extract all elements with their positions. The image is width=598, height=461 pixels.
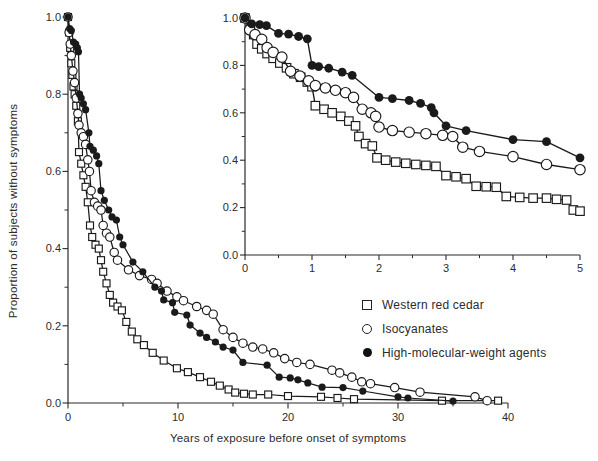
data-point-open-circle [404,127,414,137]
data-point-open-circle [458,142,468,152]
data-point-filled-circle [405,96,414,105]
x-tick-label: 20 [282,411,294,423]
data-point-open-circle [209,310,217,318]
y-tick-label: 0.4 [46,242,61,254]
data-point-open-circle [508,151,518,161]
data-point-open-circle [69,67,77,75]
x-axis-label: Years of exposure before onset of sympto… [68,432,508,444]
data-point-open-circle [448,131,458,141]
data-point-open-circle [270,349,278,357]
data-point-filled-circle [449,397,456,404]
data-point-open-circle [320,83,330,93]
data-point-filled-circle [247,20,256,29]
data-point-open-circle [541,159,551,169]
data-point-open-square [552,195,561,204]
data-point-open-circle [70,78,78,86]
data-point-open-square [462,174,471,183]
data-point-open-square [265,391,272,398]
data-point-open-circle [193,302,201,310]
data-point-filled-circle [294,376,301,383]
data-point-open-square [128,328,135,335]
data-point-open-circle [358,378,366,386]
y-tick-label: 0.2 [46,320,61,332]
data-point-open-circle [387,125,397,135]
data-point-filled-circle [64,13,71,20]
data-point-filled-circle [284,30,293,39]
data-point-filled-circle [85,129,92,136]
x-tick-label: 0 [65,411,71,423]
chart-canvas: 0102030400.00.20.40.60.81.00123450.00.20… [0,0,598,461]
data-point-filled-circle [388,94,397,103]
data-point-open-square [351,396,358,403]
y-tick-label: 0.0 [46,397,61,409]
filled-circle-icon [352,348,382,357]
main-chart: 0102030400.00.20.40.60.81.0 [46,11,514,423]
data-point-filled-circle [82,106,89,113]
data-point-open-square [337,112,346,121]
data-point-open-square [492,183,501,192]
y-axis-label: Proportion of subjects without symptoms [7,104,19,318]
data-point-filled-circle [151,284,158,291]
data-point-open-square [76,149,83,156]
data-point-filled-circle [241,14,250,23]
data-point-open-circle [336,369,344,377]
data-point-open-square [412,160,421,169]
data-point-open-square [422,161,431,170]
data-point-filled-circle [348,71,357,80]
data-point-open-circle [277,52,287,62]
data-point-open-square [432,162,441,171]
data-point-open-square [98,257,105,264]
data-point-open-circle [84,156,92,164]
data-point-filled-circle [129,259,136,266]
y-tick-label: 0.8 [223,59,238,71]
data-point-open-square [173,365,180,372]
data-point-open-square [106,291,113,298]
series-line [245,18,580,170]
data-point-filled-circle [68,27,75,34]
data-point-open-square [225,386,232,393]
data-point-filled-circle [220,343,227,350]
legend-item-western-red-cedar: Western red cedar [352,297,546,312]
data-point-filled-circle [430,108,439,117]
data-point-filled-circle [404,394,411,401]
data-point-open-square [472,182,481,191]
y-tick-label: 0.0 [223,249,238,261]
data-point-open-circle [483,396,491,404]
data-point-open-circle [106,233,114,241]
x-tick-label: 1 [309,262,315,274]
data-point-filled-circle [139,268,146,275]
data-point-open-square [576,207,585,216]
data-point-filled-circle [262,21,271,30]
y-tick-label: 1.0 [46,11,61,23]
data-point-open-circle [285,66,295,76]
x-tick-label: 3 [443,262,449,274]
x-tick-label: 40 [502,411,514,423]
data-point-open-square [184,369,191,376]
data-point-open-square [197,374,204,381]
data-point-open-square [402,159,411,168]
data-point-open-square [373,154,382,163]
data-point-open-circle [74,109,82,117]
data-point-open-square [95,245,102,252]
data-point-open-circle [99,221,107,229]
legend-label: Western red cedar [382,298,484,312]
x-tick-label: 2 [376,262,382,274]
data-point-filled-circle [97,187,104,194]
data-point-filled-circle [375,93,384,102]
x-tick-label: 10 [172,411,184,423]
data-point-open-circle [85,167,93,175]
data-point-filled-circle [183,311,190,318]
data-point-open-square [482,182,491,191]
data-point-open-circle [87,187,95,195]
data-point-open-square [392,158,401,167]
data-point-filled-circle [116,233,123,240]
data-point-filled-circle [287,374,294,381]
data-point-open-square [149,349,156,356]
data-point-filled-circle [203,334,210,341]
data-point-filled-circle [314,62,323,71]
data-point-filled-circle [576,153,585,162]
data-point-open-square [381,156,390,165]
legend: Western red cedar Isocyanates High-molec… [352,297,546,360]
data-point-filled-circle [101,197,108,204]
y-tick-label: 0.8 [46,88,61,100]
